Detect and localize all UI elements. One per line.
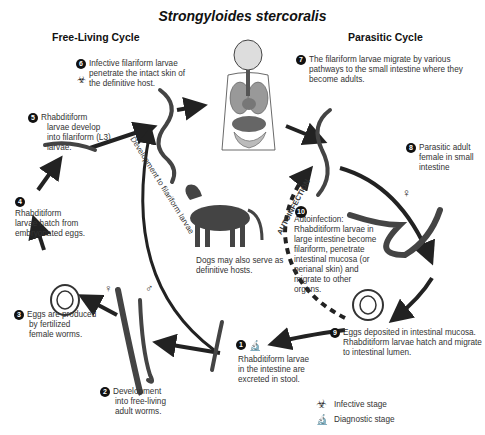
excreted-larva-worm (212, 322, 222, 370)
legend-infective: ☣ Infective stage (316, 397, 395, 411)
legend: ☣ Infective stage 🔬 Diagnostic stage (316, 397, 395, 425)
legend-diagnostic: 🔬 Diagnostic stage (316, 414, 395, 425)
step-6-number: 6 (76, 59, 86, 69)
biohazard-icon: ☣ (77, 74, 86, 85)
step-5: 5Rhabditiform larvae develop into filari… (28, 113, 111, 153)
biohazard-icon: ☣ (316, 397, 330, 411)
filariform-larva-worm (158, 90, 174, 182)
microscope-icon: 🔬 (249, 340, 261, 351)
step-2: 2Development into free-living adult worm… (100, 387, 166, 417)
female-free-living-worm (118, 290, 140, 392)
step-10: Autoinfection: Rhabditiform larvae in la… (294, 215, 376, 295)
step-4-number: 4 (15, 192, 28, 210)
step-6: 6Infective filariform larvae penetrate t… (76, 59, 185, 89)
dog-caption: Dogs may also serve as definitive hosts. (196, 256, 283, 276)
step-3: 3Eggs are produced by fertilized female … (14, 310, 96, 340)
step-9: 9Eggs deposited in intestinal mucosa. Rh… (330, 328, 482, 358)
step-4: Rhabditiform larvae hatch from embryonat… (15, 209, 85, 239)
male-symbol: ♂ (145, 282, 153, 294)
human-figure (222, 40, 275, 150)
microscope-icon: 🔬 (316, 414, 330, 425)
step-1-number: 1🔬 (236, 335, 261, 353)
step-7: 7The filariform larvae migrate by variou… (296, 55, 463, 85)
step-1: Rhabditiform larvae in the intestine are… (238, 355, 309, 385)
female-symbol: ♀ (104, 282, 112, 294)
migrating-larva-worm (318, 110, 331, 195)
male-free-living-worm (140, 300, 152, 382)
parasitic-female-symbol: ♀ (402, 186, 411, 200)
step-8: 8Parasitic adult female in small intesti… (406, 143, 474, 173)
dog-figure (185, 184, 262, 247)
